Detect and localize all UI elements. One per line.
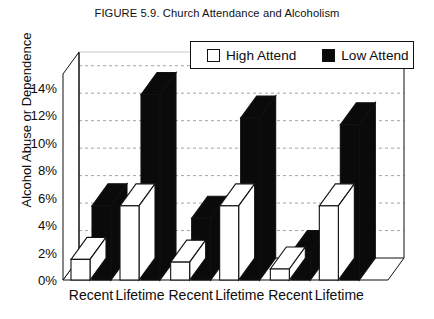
y-axis-tick-labels: 0%2%4%6%8%10%12%14% (31, 81, 58, 288)
figure-container: FIGURE 5.9. Church Attendance and Alcoho… (0, 0, 434, 319)
y-tick-label: 0% (38, 273, 57, 288)
legend-label-low-attend: Low Attend (341, 48, 408, 63)
y-tick-label: 2% (38, 246, 57, 261)
legend-swatch-black-icon (322, 49, 335, 62)
x-category-label: Lifetime (315, 287, 364, 303)
y-tick-label: 8% (38, 163, 57, 178)
category-labels: RecentLifetimeRecentLifetimeRecentLifeti… (69, 287, 364, 303)
x-category-label: Lifetime (215, 287, 264, 303)
legend-label-high-attend: High Attend (226, 48, 296, 63)
y-tick-label: 14% (31, 81, 58, 96)
y-tick-label: 4% (38, 218, 57, 233)
y-tick-label: 10% (31, 136, 58, 151)
y-tick-label: 12% (31, 108, 58, 123)
x-category-label: Recent (168, 287, 212, 303)
x-category-label: Lifetime (115, 287, 164, 303)
x-category-label: Recent (69, 287, 113, 303)
legend-item-high-attend: High Attend (207, 48, 296, 63)
legend-item-low-attend: Low Attend (322, 48, 408, 63)
bars-layer (71, 73, 375, 280)
chart-legend: High Attend Low Attend (190, 41, 414, 69)
x-category-label: Recent (268, 287, 312, 303)
legend-swatch-white-icon (207, 49, 220, 62)
y-tick-label: 6% (38, 191, 57, 206)
